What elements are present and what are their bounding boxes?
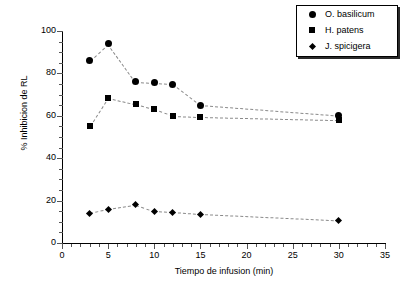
x-axis-minor-tick <box>348 244 349 247</box>
x-axis-tick <box>154 244 155 249</box>
x-axis-minor-tick <box>320 244 321 247</box>
series-line-segment <box>200 117 338 121</box>
legend-item-label: O. basilicum <box>325 9 375 19</box>
plot-area <box>62 31 385 243</box>
legend-item-label: H. patens <box>325 25 364 35</box>
data-point-marker <box>87 123 93 129</box>
x-axis-tick <box>108 244 109 249</box>
x-axis-minor-tick <box>357 244 358 247</box>
x-axis-minor-tick <box>210 244 211 247</box>
x-axis-minor-tick <box>127 244 128 247</box>
x-axis-tick <box>339 244 340 249</box>
x-axis-minor-tick <box>367 244 368 247</box>
y-axis-tick-label: 100 <box>16 25 56 35</box>
x-axis-tick-label: 35 <box>370 250 400 260</box>
x-axis-tick-label: 10 <box>139 250 169 260</box>
x-axis-minor-tick <box>164 244 165 247</box>
x-axis-tick <box>200 244 201 249</box>
data-point-marker <box>86 57 93 64</box>
legend-item-label: J. spicigera <box>325 41 371 51</box>
series-line-segment <box>200 105 338 117</box>
data-point-marker <box>170 113 176 119</box>
x-axis-minor-tick <box>71 244 72 247</box>
x-axis-minor-tick <box>136 244 137 247</box>
x-axis-minor-tick <box>117 244 118 247</box>
data-point-marker <box>335 217 342 224</box>
x-axis-title: Tiempo de infusion (min) <box>62 266 386 276</box>
x-axis-tick <box>62 244 63 249</box>
x-axis-minor-tick <box>191 244 192 247</box>
data-point-marker <box>132 201 139 208</box>
series-line-segment <box>108 98 136 105</box>
legend-item[interactable]: H. patens <box>297 22 397 38</box>
legend-item[interactable]: J. spicigera <box>297 38 397 54</box>
x-axis-tick-label: 5 <box>93 250 123 260</box>
x-axis-tick <box>293 244 294 249</box>
series-line-segment <box>107 44 135 83</box>
series-line-segment <box>173 116 201 118</box>
x-axis-minor-tick <box>302 244 303 247</box>
data-point-marker <box>197 114 203 120</box>
x-axis-minor-tick <box>265 244 266 247</box>
square-marker-icon <box>305 23 319 37</box>
data-point-marker <box>105 95 111 101</box>
x-axis-minor-tick <box>376 244 377 247</box>
x-axis-minor-tick <box>182 244 183 247</box>
x-axis-minor-tick <box>99 244 100 247</box>
data-point-marker <box>105 40 112 47</box>
x-axis-tick-label: 25 <box>278 250 308 260</box>
y-axis-tick-label: 0 <box>16 237 56 247</box>
x-axis-minor-tick <box>283 244 284 247</box>
chart-container: 020406080100 05101520253035 % Inhibicion… <box>0 0 404 293</box>
legend: O. basilicumH. patensJ. spicigera <box>296 5 398 57</box>
x-axis-minor-tick <box>311 244 312 247</box>
x-axis-minor-tick <box>237 244 238 247</box>
x-axis-tick-label: 0 <box>47 250 77 260</box>
x-axis-tick <box>247 244 248 249</box>
data-point-marker <box>132 78 139 85</box>
x-axis-minor-tick <box>173 244 174 247</box>
data-point-marker <box>151 79 158 86</box>
y-axis-tick-label: 20 <box>16 195 56 205</box>
x-axis-tick-label: 20 <box>232 250 262 260</box>
data-point-marker <box>105 206 112 213</box>
data-point-marker <box>169 209 176 216</box>
data-point-marker <box>86 210 93 217</box>
data-point-marker <box>151 208 158 215</box>
x-axis-minor-tick <box>219 244 220 247</box>
x-axis-minor-tick <box>80 244 81 247</box>
x-axis-minor-tick <box>256 244 257 247</box>
data-point-marker <box>151 106 157 112</box>
series-line-segment <box>108 205 136 210</box>
diamond-marker-icon <box>305 39 319 53</box>
x-axis-minor-tick <box>330 244 331 247</box>
circle-marker-icon <box>305 7 319 21</box>
x-axis-tick <box>385 244 386 249</box>
data-point-marker <box>197 102 204 109</box>
data-point-marker <box>133 101 139 107</box>
data-point-marker <box>169 81 176 88</box>
x-axis-minor-tick <box>90 244 91 247</box>
x-axis-minor-tick <box>228 244 229 247</box>
data-point-marker <box>336 117 342 123</box>
x-axis-line <box>62 243 386 244</box>
series-line-segment <box>200 214 338 221</box>
data-point-marker <box>197 211 204 218</box>
y-axis-title: % Inhibicion de RL <box>19 43 29 183</box>
legend-item[interactable]: O. basilicum <box>297 6 397 22</box>
x-axis-minor-tick <box>274 244 275 247</box>
x-axis-minor-tick <box>145 244 146 247</box>
series-line-segment <box>172 84 200 106</box>
x-axis-tick-label: 30 <box>324 250 354 260</box>
x-axis-tick-label: 15 <box>185 250 215 260</box>
